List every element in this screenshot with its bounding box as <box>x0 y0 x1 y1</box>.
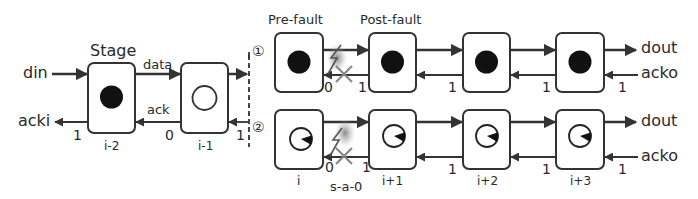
full-token-icon <box>475 51 498 74</box>
full-token-icon <box>288 51 311 74</box>
ack-value: 0 <box>324 80 333 94</box>
stage-id-i: i <box>297 175 300 187</box>
ack-value-i-2: 1 <box>73 128 82 142</box>
full-token-icon <box>100 86 123 109</box>
broken-link-x-icon <box>336 148 352 164</box>
scenario-2-marker: ② <box>252 120 265 134</box>
ack-value-boundary: 1 <box>236 128 245 142</box>
dout-label: dout <box>641 113 677 129</box>
stuck-at-0-label: s-a-0 <box>330 180 362 193</box>
ack-value: 1 <box>448 80 457 94</box>
pipeline-diagram <box>0 0 698 199</box>
ack-label: ack <box>147 103 170 116</box>
broken-link-x-icon <box>336 66 352 82</box>
stage-id-i-2: i-2 <box>104 140 119 152</box>
ack-value: 1 <box>618 80 627 94</box>
post-fault-label: Post-fault <box>360 13 421 26</box>
partial-token-icon <box>290 128 312 150</box>
acki-label: acki <box>18 113 50 129</box>
stage-id-i-1: i-1 <box>198 140 213 152</box>
partial-token-icon <box>383 125 405 147</box>
ack-value: 1 <box>542 162 551 176</box>
partial-token-icon <box>476 125 498 147</box>
full-token-icon <box>569 51 592 74</box>
ack-value: 0 <box>325 160 334 174</box>
ack-value: 1 <box>542 80 551 94</box>
acko-label: acko <box>641 148 678 164</box>
ack-value: 1 <box>618 162 627 176</box>
partial-token-icon <box>569 125 591 147</box>
stage-title: Stage <box>90 43 136 59</box>
empty-token-icon <box>193 86 217 110</box>
din-label: din <box>23 65 48 81</box>
pre-fault-label: Pre-fault <box>268 13 323 26</box>
stage-id-i+2: i+2 <box>477 175 498 187</box>
stage-id-i+1: i+1 <box>382 175 403 187</box>
stage-id-i+3: i+3 <box>570 175 591 187</box>
ack-value: 1 <box>358 80 367 94</box>
scenario-1-marker: ① <box>252 44 265 58</box>
dout-label: dout <box>641 40 677 56</box>
acko-label: acko <box>641 65 678 81</box>
ack-value-i-1: 0 <box>165 128 174 142</box>
ack-value: 1 <box>362 160 371 174</box>
ack-value: 1 <box>448 162 457 176</box>
data-label: data <box>143 58 172 71</box>
full-token-icon <box>381 51 404 74</box>
